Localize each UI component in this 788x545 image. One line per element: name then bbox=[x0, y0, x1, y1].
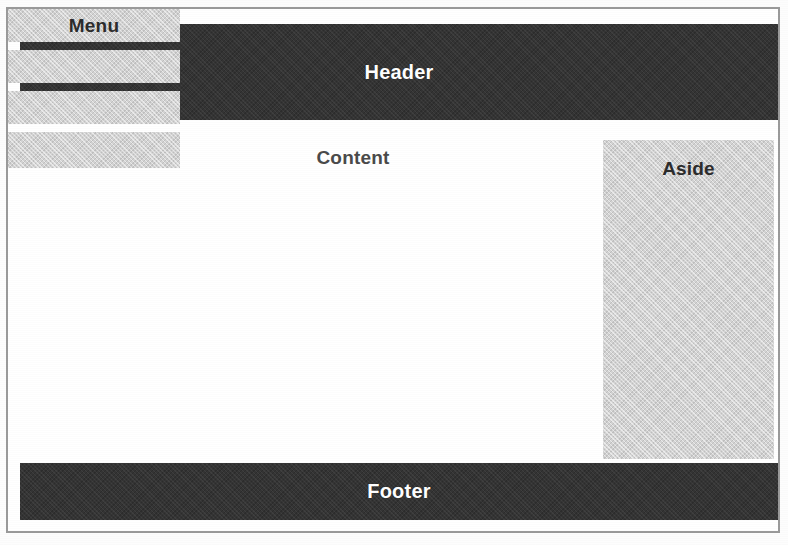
content-region: Content bbox=[208, 139, 602, 459]
menu-region: Menu bbox=[8, 9, 180, 175]
menu-item-1[interactable] bbox=[8, 50, 180, 83]
menu-item-3[interactable] bbox=[8, 132, 180, 168]
aside-label: Aside bbox=[603, 158, 774, 180]
menu-item-0[interactable]: Menu bbox=[8, 9, 180, 42]
footer-region: Footer bbox=[20, 463, 778, 520]
aside-region: Aside bbox=[603, 140, 774, 459]
diagram-page: Header Menu Content Aside bbox=[0, 0, 788, 545]
header-label: Header bbox=[364, 61, 433, 84]
footer-label: Footer bbox=[367, 480, 430, 503]
menu-item-label: Menu bbox=[69, 15, 119, 37]
menu-item-2[interactable] bbox=[8, 91, 180, 124]
page-frame: Header Menu Content Aside bbox=[6, 7, 780, 533]
content-label: Content bbox=[208, 147, 498, 169]
